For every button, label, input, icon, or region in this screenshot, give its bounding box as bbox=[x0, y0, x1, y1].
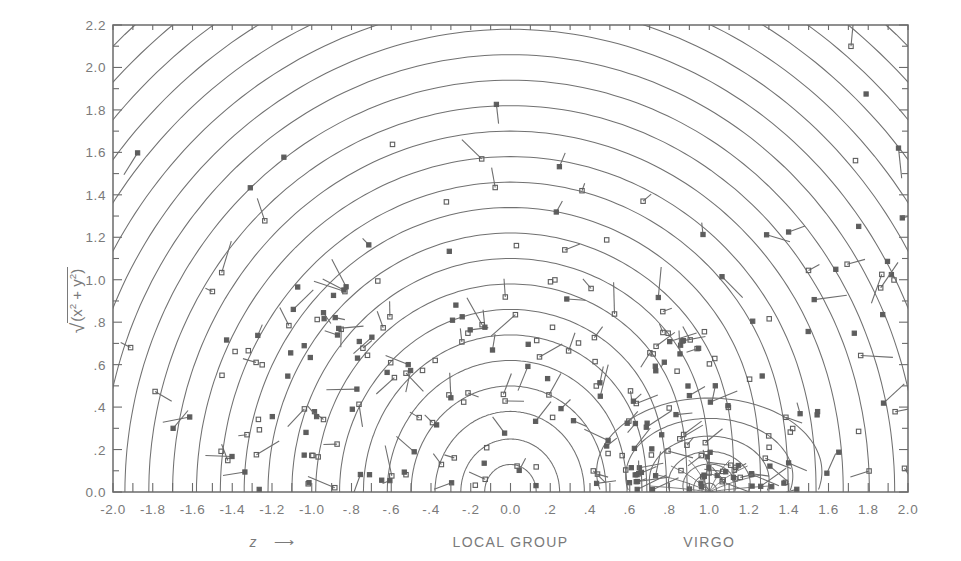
galaxy-marker bbox=[662, 360, 666, 364]
galaxy-marker bbox=[548, 280, 552, 284]
galaxy-marker bbox=[635, 487, 639, 491]
galaxy-marker bbox=[635, 473, 639, 477]
x-tick-label: -1.0 bbox=[299, 502, 325, 517]
galaxy-marker bbox=[337, 326, 341, 330]
x-tick-label: -.2 bbox=[462, 502, 480, 517]
x-tick-label: .6 bbox=[624, 502, 636, 517]
galaxy-marker bbox=[631, 399, 635, 403]
galaxy-marker bbox=[321, 311, 325, 315]
velocity-vector bbox=[238, 435, 247, 436]
galaxy-marker bbox=[678, 352, 682, 356]
local-group-label: LOCAL GROUP bbox=[452, 534, 568, 550]
galaxy-marker bbox=[606, 451, 610, 455]
galaxy-marker bbox=[707, 362, 711, 366]
galaxy-marker bbox=[806, 329, 810, 333]
velocity-vector bbox=[722, 482, 751, 493]
galaxy-marker bbox=[342, 288, 346, 292]
velocity-vector bbox=[223, 472, 245, 476]
velocity-vector bbox=[631, 391, 632, 399]
galaxy-marker bbox=[335, 333, 339, 337]
y-tick-label: 1.6 bbox=[58, 145, 106, 160]
velocity-vector bbox=[396, 436, 414, 452]
galaxy-marker bbox=[526, 342, 530, 346]
y-axis-label: √(x2 + y2) bbox=[16, 245, 136, 365]
galaxy-marker bbox=[798, 412, 802, 416]
velocity-vector bbox=[636, 395, 658, 403]
galaxy-marker bbox=[246, 349, 250, 353]
galaxy-marker bbox=[768, 464, 772, 468]
galaxy-marker bbox=[857, 224, 861, 228]
x-tick-label: -2.0 bbox=[100, 502, 126, 517]
galaxy-marker bbox=[355, 387, 359, 391]
x-tick-label: -1.6 bbox=[180, 502, 206, 517]
velocity-vector bbox=[351, 475, 360, 500]
x-tick-label: 1.8 bbox=[858, 502, 879, 517]
galaxy-marker bbox=[856, 429, 860, 433]
galaxy-marker bbox=[853, 158, 857, 162]
galaxy-marker bbox=[654, 369, 658, 373]
velocity-vector bbox=[851, 20, 854, 46]
velocity-vector bbox=[433, 454, 441, 465]
galaxy-marker bbox=[402, 470, 406, 474]
galaxy-marker bbox=[225, 338, 229, 342]
velocity-vector bbox=[584, 429, 608, 440]
galaxy-marker bbox=[837, 450, 841, 454]
galaxy-marker bbox=[834, 267, 838, 271]
x-tick-label: 1.0 bbox=[699, 502, 720, 517]
galaxy-marker bbox=[653, 364, 657, 368]
galaxy-marker bbox=[632, 446, 636, 450]
velocity-vector bbox=[354, 337, 372, 353]
galaxy-marker bbox=[514, 243, 518, 247]
galaxy-marker bbox=[291, 307, 295, 311]
galaxy-marker bbox=[707, 466, 711, 470]
galaxy-marker bbox=[668, 340, 672, 344]
galaxy-marker bbox=[380, 478, 384, 482]
galaxy-marker bbox=[553, 278, 557, 282]
galaxy-marker bbox=[302, 453, 306, 457]
velocity-vector bbox=[663, 308, 672, 311]
x-tick-label: .8 bbox=[663, 502, 675, 517]
x-tick-label: 1.4 bbox=[778, 502, 799, 517]
velocity-vector bbox=[536, 402, 551, 422]
galaxy-marker bbox=[571, 419, 575, 423]
velocity-vector bbox=[679, 331, 680, 354]
velocity-vector bbox=[658, 267, 661, 298]
galaxy-marker bbox=[473, 483, 477, 487]
galaxy-marker bbox=[517, 468, 521, 472]
velocity-vector bbox=[639, 463, 663, 468]
galaxy-marker bbox=[795, 487, 799, 491]
galaxy-marker bbox=[750, 484, 754, 488]
velocity-vector bbox=[895, 408, 913, 412]
galaxy-marker bbox=[370, 335, 374, 339]
galaxy-marker bbox=[702, 330, 706, 334]
velocity-vector bbox=[646, 411, 671, 428]
x-tick-label: .4 bbox=[584, 502, 596, 517]
x-tick-label: 2.0 bbox=[898, 502, 919, 517]
galaxy-marker bbox=[501, 392, 505, 396]
galaxy-marker bbox=[760, 374, 764, 378]
galaxy-marker bbox=[815, 413, 819, 417]
y-tick-label: 1.4 bbox=[58, 187, 106, 202]
galaxy-marker bbox=[537, 355, 541, 359]
velocity-vector bbox=[881, 262, 898, 288]
galaxy-marker bbox=[420, 368, 424, 372]
galaxy-marker bbox=[257, 487, 261, 491]
galaxy-marker bbox=[308, 355, 312, 359]
galaxy-marker bbox=[482, 461, 486, 465]
velocity-vector bbox=[492, 168, 496, 188]
galaxy-marker bbox=[286, 374, 290, 378]
velocity-vector bbox=[124, 153, 138, 175]
galaxy-marker bbox=[605, 444, 609, 448]
y-tick-label: .4 bbox=[58, 400, 106, 415]
galaxy-marker bbox=[355, 356, 359, 360]
x-tick-label: 1.2 bbox=[739, 502, 760, 517]
galaxy-marker bbox=[708, 400, 712, 404]
galaxy-marker bbox=[233, 349, 237, 353]
velocity-vector bbox=[861, 356, 893, 358]
velocity-vector bbox=[668, 451, 693, 458]
galaxy-marker bbox=[554, 210, 558, 214]
galaxy-marker bbox=[650, 488, 654, 492]
galaxy-marker bbox=[449, 396, 453, 400]
galaxy-marker bbox=[660, 433, 664, 437]
galaxy-marker bbox=[315, 317, 319, 321]
